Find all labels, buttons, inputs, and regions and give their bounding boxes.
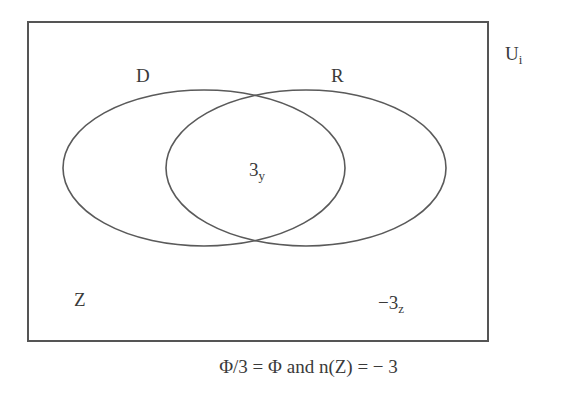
set-r-label-text: R [331,65,344,86]
outside-value-subscript: z [398,301,404,316]
intersection-value: 3y [249,160,265,179]
outside-value: −3z [378,293,404,312]
outside-value-text: −3 [378,292,398,313]
venn-diagram [0,0,568,398]
intersection-value-text: 3 [249,159,259,180]
outside-label-z-text: Z [74,289,86,310]
set-d-label-text: D [136,65,150,86]
set-d-ellipse [63,90,345,246]
set-d-label: D [136,66,150,85]
universe-label-subscript: i [519,52,523,67]
intersection-value-subscript: y [259,168,266,183]
set-r-label: R [331,66,344,85]
diagram-caption: Φ/3 = Φ and n(Z) = − 3 [0,356,568,378]
universe-label-text: U [505,43,519,64]
universe-label: Ui [505,44,522,63]
outside-label-z: Z [74,290,86,309]
